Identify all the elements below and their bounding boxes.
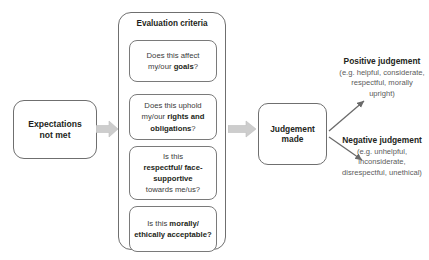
criterion-rights-tail: ? (191, 124, 195, 133)
node-judgement-line1: Judgement (270, 124, 315, 134)
outcome-negative-heading: Negative judgement (338, 135, 426, 146)
outcome-negative-detail: (e.g. unhelpful, inconsiderate, disrespe… (338, 147, 426, 178)
criterion-goals-text: Does this affect my/our goals? (147, 50, 200, 72)
criterion-morally-ethically-acceptable[interactable]: Is this morally/ ethically acceptable? (129, 206, 217, 252)
criterion-rights-and-obligations[interactable]: Does this uphold my/our rights and oblig… (129, 94, 217, 140)
criterion-moral-text: Is this morally/ ethically acceptable? (133, 218, 213, 240)
node-expectations-line2: not met (39, 130, 70, 140)
evaluation-criteria-title: Evaluation criteria (119, 19, 225, 28)
criterion-respectful-face-supportive[interactable]: Is this respectful/ face-supportive towa… (129, 146, 217, 200)
criterion-respect-tail: towards me/us? (146, 185, 200, 194)
criterion-goals[interactable]: Does this affect my/our goals? (129, 40, 217, 82)
criterion-rights-mid: my/our (142, 112, 168, 121)
node-judgement-made[interactable]: Judgement made (258, 103, 327, 165)
arrow-judgement-to-positive (329, 101, 364, 131)
criterion-moral-emphasis: morally/ ethically acceptable? (134, 219, 211, 239)
criterion-respect-emphasis: respectful/ face-supportive (144, 163, 203, 183)
criterion-rights-lead: Does this uphold (144, 101, 201, 110)
outcome-positive-detail: (e.g. helpful, considerate, respectful, … (338, 68, 426, 99)
outcome-positive-heading: Positive judgement (338, 56, 426, 67)
node-expectations-not-met[interactable]: Expectations not met (13, 100, 97, 159)
node-expectations-line1: Expectations (28, 119, 82, 129)
node-judgement-line2: made (282, 134, 304, 144)
node-judgement-label: Judgement made (270, 124, 315, 145)
arrow-start-to-criteria (96, 119, 119, 139)
criterion-rights-text: Does this uphold my/our rights and oblig… (133, 100, 213, 133)
criterion-goals-emphasis: goals (174, 62, 194, 71)
node-expectations-label: Expectations not met (28, 119, 82, 140)
outcome-positive-judgement: Positive judgement (e.g. helpful, consid… (338, 56, 426, 99)
diagram-canvas: Expectations not met Evaluation criteria… (0, 0, 429, 260)
outcome-negative-judgement: Negative judgement (e.g. unhelpful, inco… (338, 135, 426, 178)
arrow-criteria-to-judgement (228, 119, 257, 139)
criterion-moral-lead: Is this (147, 219, 169, 228)
group-evaluation-criteria: Evaluation criteria Does this affect my/… (118, 12, 226, 250)
criterion-goals-lead: Does this affect (147, 51, 200, 60)
criterion-goals-tail: ? (194, 62, 198, 71)
criterion-respect-lead: Is this (163, 152, 183, 161)
criterion-goals-mid: my/our (148, 62, 174, 71)
criterion-respect-text: Is this respectful/ face-supportive towa… (133, 151, 213, 196)
